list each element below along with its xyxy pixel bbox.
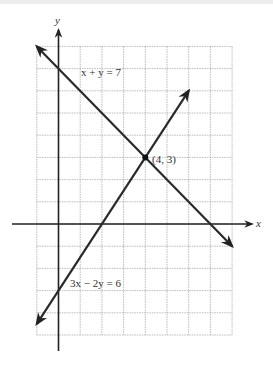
y-axis-label: y bbox=[54, 14, 60, 26]
lines bbox=[37, 46, 232, 324]
line2-label: 3x − 2y = 6 bbox=[70, 277, 121, 289]
intersection-label: (4, 3) bbox=[152, 153, 176, 166]
x-axis-label: x bbox=[255, 217, 261, 229]
grid bbox=[37, 46, 232, 335]
intersection-point bbox=[142, 154, 148, 160]
axes bbox=[12, 30, 252, 351]
line1-label: x + y = 7 bbox=[81, 66, 121, 78]
graph-canvas: x y x + y = 7 3x − 2y = 6 (4, 3) bbox=[0, 0, 273, 366]
